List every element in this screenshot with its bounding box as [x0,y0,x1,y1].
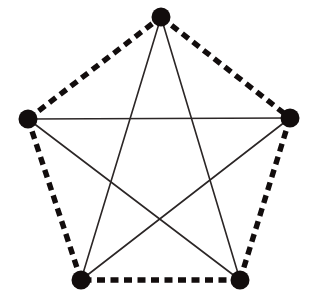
graph-canvas [0,0,313,303]
vertex-left [19,110,38,129]
vertex-top [152,8,171,27]
canvas-background [0,0,313,303]
vertex-bottom-left [72,271,91,290]
vertex-bottom-right [231,271,250,290]
figure-root [0,0,313,303]
vertex-right [281,109,300,128]
diagonal-right-left [28,118,290,119]
